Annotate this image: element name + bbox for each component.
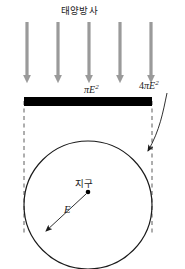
solar-radiation-diagram: 태양방사 πE2 4πE2 지구 E bbox=[0, 0, 185, 269]
earth-circle bbox=[24, 141, 152, 269]
title-label: 태양방사 bbox=[61, 6, 98, 16]
disk-area-exponent: 2 bbox=[95, 83, 99, 91]
solar-ray-group bbox=[27, 22, 151, 76]
radius-label: E bbox=[64, 205, 70, 216]
cross-section-bar bbox=[24, 97, 152, 106]
sphere-area-label: 4πE2 bbox=[139, 80, 159, 91]
sphere-area-exponent: 2 bbox=[155, 79, 159, 87]
diagram-canvas bbox=[0, 0, 185, 269]
earth-center-dot bbox=[86, 190, 91, 195]
earth-label: 지구 bbox=[75, 179, 93, 189]
disk-area-label: πE2 bbox=[84, 84, 99, 95]
